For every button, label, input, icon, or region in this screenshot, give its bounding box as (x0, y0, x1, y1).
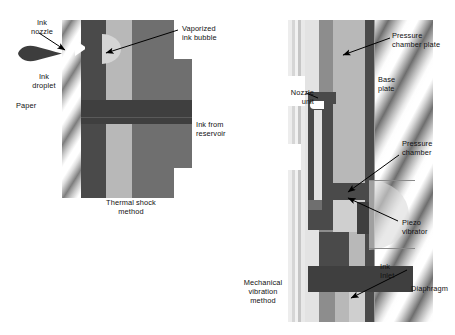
caption-thermal-shock-method: Thermal shock method (88, 198, 174, 216)
label-diaphragm: Diaphragm (411, 284, 455, 293)
leader-vaporized-bubble (106, 30, 178, 53)
label-ink-droplet: Ink droplet (20, 72, 68, 90)
label-ink-inlet: Ink Inlet (380, 262, 422, 280)
leader-piezo-vibrator (348, 198, 398, 221)
label-paper: Paper (16, 101, 64, 110)
label-base-plate: Base plate (378, 75, 426, 93)
caption-mechanical-vibration-method: Mechanical vibration method (232, 278, 294, 306)
leader-pressure-chamber (348, 155, 399, 192)
label-ink-from-reservoir: Ink from reservoir (196, 120, 258, 138)
label-ink-nozzle: Ink nozzle (18, 18, 66, 36)
callout-leader-lines (0, 0, 455, 335)
label-vaporized-ink-bubble: Vaporized ink bubble (182, 24, 260, 42)
label-pressure-chamber-plate: Pressure chamber plate (392, 31, 455, 49)
label-piezo-vibrator: Piezo vibrator (402, 218, 454, 236)
label-nozzle-unit: Nozzle unit (252, 88, 314, 106)
figure-canvas: Ink nozzle Ink droplet Paper Vaporized i… (0, 0, 455, 335)
leader-pressure-chamber-plate (343, 38, 390, 55)
label-pressure-chamber: Pressure chamber (402, 139, 455, 157)
